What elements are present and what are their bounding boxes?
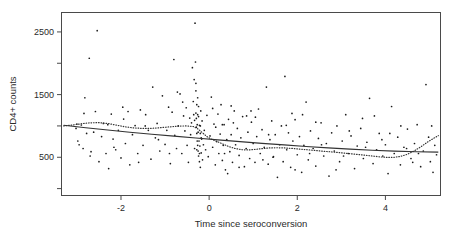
- chart-figure-root: -2024 50015002500 Time since seroconvers…: [0, 0, 455, 238]
- data-point: [93, 131, 95, 133]
- data-point: [302, 114, 304, 116]
- data-point: [169, 153, 171, 155]
- data-point: [365, 146, 367, 148]
- y-tick-label: 500: [39, 152, 54, 162]
- data-point: [418, 153, 420, 155]
- data-point: [98, 161, 100, 163]
- data-point: [410, 158, 412, 160]
- data-point: [122, 106, 124, 108]
- data-point: [434, 145, 436, 147]
- data-point: [195, 82, 197, 84]
- data-point: [256, 136, 258, 138]
- data-point: [272, 156, 274, 158]
- data-point: [240, 137, 242, 139]
- data-point: [360, 128, 362, 130]
- data-point: [414, 143, 416, 145]
- data-point: [209, 135, 211, 137]
- data-point: [77, 140, 79, 142]
- data-point: [86, 133, 88, 135]
- data-point: [220, 104, 222, 106]
- data-point: [203, 129, 205, 131]
- data-point: [247, 131, 249, 133]
- data-point: [222, 124, 224, 126]
- data-point: [291, 113, 293, 115]
- data-point: [223, 124, 225, 126]
- data-point: [84, 97, 86, 99]
- data-point: [113, 146, 115, 148]
- data-point: [177, 91, 179, 93]
- data-point: [215, 126, 217, 128]
- data-point: [258, 108, 260, 110]
- data-point: [416, 124, 418, 126]
- data-point: [186, 145, 188, 147]
- data-point: [199, 133, 201, 135]
- data-point: [184, 130, 186, 132]
- data-point: [214, 164, 216, 166]
- data-point: [274, 134, 276, 136]
- data-point: [196, 140, 198, 142]
- data-point: [242, 116, 244, 118]
- data-point: [262, 159, 264, 161]
- data-point: [196, 104, 198, 106]
- data-point: [305, 101, 307, 103]
- data-point: [321, 144, 323, 146]
- data-point: [255, 116, 257, 118]
- data-point: [222, 160, 224, 162]
- data-point: [144, 125, 146, 127]
- data-point: [412, 161, 414, 163]
- data-point: [246, 115, 248, 117]
- data-point: [391, 106, 393, 108]
- data-point: [238, 166, 240, 168]
- data-point: [294, 169, 296, 171]
- data-point: [134, 125, 136, 127]
- data-point: [228, 119, 230, 121]
- data-point: [336, 125, 338, 127]
- data-point: [158, 139, 160, 141]
- data-point: [123, 118, 125, 120]
- data-point: [269, 139, 271, 141]
- data-point: [168, 106, 170, 108]
- data-point: [266, 86, 268, 88]
- data-point: [244, 166, 246, 168]
- data-point: [323, 155, 325, 157]
- data-point: [400, 125, 402, 127]
- data-point: [249, 158, 251, 160]
- data-point: [233, 122, 235, 124]
- data-point: [354, 168, 356, 170]
- data-point: [170, 163, 172, 165]
- data-point: [350, 135, 352, 137]
- data-point: [120, 157, 122, 159]
- data-point: [200, 110, 202, 112]
- data-point: [389, 133, 391, 135]
- data-point: [89, 155, 91, 157]
- data-point: [230, 105, 232, 107]
- data-point: [235, 144, 237, 146]
- data-point: [296, 154, 298, 156]
- data-point: [198, 116, 200, 118]
- data-point: [166, 129, 168, 131]
- data-point: [155, 137, 157, 139]
- data-point: [181, 153, 183, 155]
- data-point: [147, 129, 149, 131]
- data-point: [397, 136, 399, 138]
- data-point: [230, 134, 232, 136]
- data-point: [212, 146, 214, 148]
- data-point: [236, 128, 238, 130]
- data-point: [250, 110, 252, 112]
- data-point: [75, 128, 77, 130]
- data-point: [212, 108, 214, 110]
- data-point: [219, 133, 221, 135]
- data-point: [430, 161, 432, 163]
- data-point: [127, 111, 129, 113]
- data-point: [193, 114, 195, 116]
- data-point: [199, 145, 201, 147]
- data-point: [199, 166, 201, 168]
- data-point: [261, 129, 263, 131]
- data-point: [290, 166, 292, 168]
- data-point: [90, 151, 92, 153]
- data-point: [284, 76, 286, 78]
- x-axis-title: Time since seroconversion: [195, 218, 308, 229]
- data-point: [199, 153, 201, 155]
- data-point: [82, 148, 84, 150]
- data-point: [315, 165, 317, 167]
